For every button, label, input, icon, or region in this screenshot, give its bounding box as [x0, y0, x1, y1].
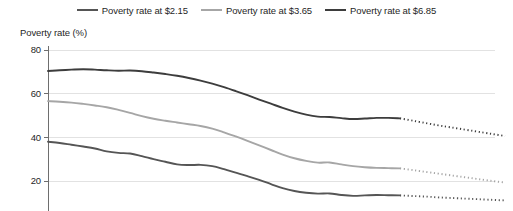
series-line-2: [48, 101, 400, 168]
series-projection-line-1: [400, 195, 505, 200]
series-projection-line-2: [400, 168, 505, 182]
plot-area: 20406080: [0, 0, 513, 211]
gridlines-group: [48, 50, 495, 181]
plot-svg: 20406080: [0, 0, 513, 211]
y-tick-label-40: 40: [31, 132, 41, 143]
y-tick-label-20: 20: [31, 175, 41, 186]
y-tick-labels-group: 20406080: [31, 44, 41, 186]
poverty-rate-line-chart: Poverty rate at $2.15 Poverty rate at $3…: [0, 0, 513, 211]
y-tick-label-60: 60: [31, 88, 41, 99]
series-line-1: [48, 142, 400, 196]
y-tick-label-80: 80: [31, 44, 41, 55]
series-projection-line-3: [400, 118, 505, 136]
